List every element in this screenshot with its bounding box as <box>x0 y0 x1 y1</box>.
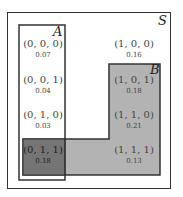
cell-tuple: (1, 0, 0) <box>106 38 162 50</box>
cell-000: (0, 0, 0) 0.07 <box>18 38 68 60</box>
cell-prob: 0.18 <box>106 86 162 96</box>
cell-101: (1, 0, 1) 0.18 <box>106 74 162 96</box>
cell-111: (1, 1, 1) 0.13 <box>106 144 162 166</box>
cell-prob: 0.04 <box>18 86 68 96</box>
cell-prob: 0.03 <box>18 121 68 131</box>
set-s-label: S <box>158 14 167 27</box>
cell-tuple: (0, 0, 0) <box>18 38 68 50</box>
cell-tuple: (1, 1, 1) <box>106 144 162 156</box>
cell-tuple: (0, 0, 1) <box>18 74 68 86</box>
cell-tuple: (0, 1, 0) <box>18 109 68 121</box>
cell-prob: 0.21 <box>106 121 162 131</box>
cell-prob: 0.18 <box>18 156 68 166</box>
cell-010: (0, 1, 0) 0.03 <box>18 109 68 131</box>
cell-tuple: (1, 0, 1) <box>106 74 162 86</box>
set-a-label: A <box>53 25 62 38</box>
cell-001: (0, 0, 1) 0.04 <box>18 74 68 96</box>
cell-110: (1, 1, 0) 0.21 <box>106 109 162 131</box>
cell-prob: 0.16 <box>106 50 162 60</box>
cell-prob: 0.07 <box>18 50 68 60</box>
cell-prob: 0.13 <box>106 156 162 166</box>
cell-tuple: (0, 1, 1) <box>18 144 68 156</box>
cell-011: (0, 1, 1) 0.18 <box>18 144 68 166</box>
cell-tuple: (1, 1, 0) <box>106 109 162 121</box>
cell-100: (1, 0, 0) 0.16 <box>106 38 162 60</box>
